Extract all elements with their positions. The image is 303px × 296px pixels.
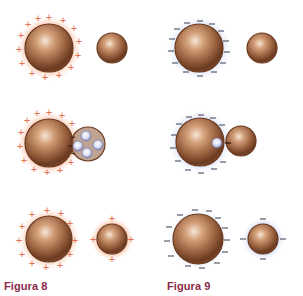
- svg-text:+: +: [15, 44, 23, 54]
- svg-text:+: +: [20, 155, 28, 165]
- svg-text:+: +: [58, 110, 66, 120]
- svg-text:+: +: [18, 58, 26, 68]
- svg-text:+: +: [28, 209, 36, 219]
- svg-text:+: +: [23, 115, 31, 125]
- svg-text:+: +: [34, 13, 42, 23]
- svg-text:+: +: [56, 260, 64, 270]
- svg-text:+: +: [41, 72, 49, 82]
- fig9-row2-contact: [167, 109, 256, 175]
- svg-text:+: +: [43, 205, 51, 215]
- svg-text:+: +: [108, 213, 116, 223]
- svg-text:+: +: [66, 249, 74, 259]
- fig9-row1-before: [166, 15, 277, 81]
- svg-text:+: +: [57, 208, 65, 218]
- svg-text:+: +: [17, 127, 25, 137]
- neutral-sphere: [97, 33, 127, 63]
- svg-text:+: +: [16, 141, 24, 151]
- svg-text:+: +: [68, 118, 76, 128]
- neutral-sphere: [247, 33, 277, 63]
- svg-text:+: +: [56, 165, 64, 175]
- svg-text:+: +: [66, 218, 74, 228]
- svg-text:+: +: [15, 235, 23, 245]
- svg-text:+: +: [71, 235, 79, 245]
- figure-9-caption: Figura 9: [167, 280, 211, 292]
- svg-text:+: +: [18, 249, 26, 259]
- svg-text:+: +: [28, 258, 36, 268]
- svg-text:+: +: [127, 234, 135, 244]
- svg-text:+: +: [89, 234, 97, 244]
- figure-8-caption: Figura 8: [4, 280, 48, 292]
- svg-text:+: +: [59, 15, 67, 25]
- fig8-row1-before: +++ +++ +++ +++ ++: [15, 12, 127, 82]
- svg-text:+: +: [18, 221, 26, 231]
- svg-text:+: +: [45, 107, 53, 117]
- fig9-row3-after: [164, 208, 286, 270]
- electron: [212, 138, 222, 148]
- svg-text:+: +: [70, 23, 78, 33]
- fig8-row2-contact: +++ +++ +++ +++: [16, 107, 105, 177]
- svg-text:+: +: [24, 19, 32, 29]
- svg-text:+: +: [108, 254, 116, 264]
- svg-text:+: +: [33, 108, 41, 118]
- figure-8: +++ +++ +++ +++ ++ +++ +++ +++ +++: [15, 12, 135, 272]
- svg-text:+: +: [45, 12, 53, 22]
- svg-text:+: +: [75, 36, 83, 46]
- svg-text:+: +: [43, 167, 51, 177]
- svg-text:+: +: [74, 50, 82, 60]
- svg-text:+: +: [28, 68, 36, 78]
- svg-text:+: +: [30, 164, 38, 174]
- fig8-row3-after: +++ +++ +++ +++ ++ ++: [15, 205, 135, 272]
- svg-text:+: +: [17, 30, 25, 40]
- electrostatic-contact-diagram: +++ +++ +++ +++ ++ +++ +++ +++ +++: [0, 0, 303, 296]
- svg-text:+: +: [67, 157, 75, 167]
- figure-9: [164, 15, 286, 270]
- svg-text:+: +: [42, 262, 50, 272]
- diagram-canvas: +++ +++ +++ +++ ++ +++ +++ +++ +++: [0, 0, 303, 296]
- svg-text:+: +: [55, 70, 63, 80]
- svg-text:+: +: [67, 62, 75, 72]
